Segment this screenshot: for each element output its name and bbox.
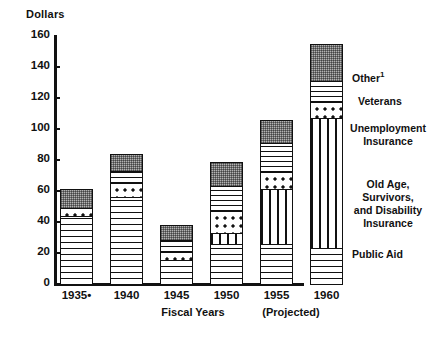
y-tick-label-60: 60 — [4, 184, 50, 195]
bar-1950-segment-public-aid — [211, 244, 242, 286]
legend-label-other: Other1 — [352, 55, 384, 85]
y-tick-label-40: 40 — [4, 215, 50, 226]
y-tick-120 — [54, 97, 60, 99]
x-axis-title: Fiscal Years — [133, 306, 253, 318]
x-tick-label-1955: 1955 — [250, 289, 303, 301]
y-tick-label-20: 20 — [4, 246, 50, 257]
bar-1960-segment-public-aid — [311, 248, 342, 286]
x-tick-label-1945: 1945 — [150, 289, 203, 301]
x-tick-label-1935: 1935• — [50, 289, 103, 301]
bar-1960-segment-veterans — [311, 81, 342, 103]
x-tick-label-1940: 1940 — [100, 289, 153, 301]
bar-1960-segment-oasdi — [311, 118, 342, 248]
y-tick-label-80: 80 — [4, 153, 50, 164]
bar-1935-segment-unemployment — [61, 208, 92, 216]
legend-label-unemployment: Unemployment Insurance — [348, 122, 428, 148]
legend-label-public-aid: Public Aid — [352, 248, 403, 261]
legend-label-oasdi: Old Age, Survivors, and Disability Insur… — [344, 178, 431, 230]
bar-1960-segment-other — [311, 45, 342, 81]
bar-1955-segment-oasdi — [261, 189, 292, 243]
bar-1940-segment-public-aid — [111, 197, 142, 286]
bar-1955-segment-public-aid — [261, 244, 292, 286]
bar-1960 — [310, 44, 343, 285]
y-tick-label-100: 100 — [4, 122, 50, 133]
bar-1950 — [210, 162, 243, 285]
legend-other-text: Other — [352, 72, 380, 84]
bar-1945-segment-veterans — [161, 240, 192, 252]
x-axis-projected-note: (Projected) — [236, 306, 346, 318]
bar-1935-segment-other — [61, 190, 92, 209]
bar-1935 — [60, 189, 93, 285]
bar-1945-segment-other — [161, 226, 192, 240]
bar-1945-segment-public-aid — [161, 260, 192, 286]
y-tick-label-140: 140 — [4, 60, 50, 71]
bar-1940-segment-other — [111, 155, 142, 171]
y-tick-label-160: 160 — [4, 29, 50, 40]
bar-1955 — [260, 120, 293, 285]
bar-1950-segment-oasdi — [211, 233, 242, 244]
bar-1940-segment-veterans — [111, 171, 142, 183]
y-tick-80 — [54, 159, 60, 161]
bar-1955-segment-veterans — [261, 143, 292, 173]
x-tick-label-1950: 1950 — [200, 289, 253, 301]
bar-1940 — [110, 154, 143, 285]
bar-1950-segment-veterans — [211, 186, 242, 211]
y-axis-tick-labels: 160 140 120 100 80 60 40 20 0 — [0, 0, 50, 341]
bar-1935-segment-public-aid — [61, 216, 92, 286]
y-tick-label-120: 120 — [4, 91, 50, 102]
legend-label-veterans: Veterans — [358, 95, 402, 108]
x-tick-label-1960: 1960 — [300, 289, 353, 301]
y-tick-100 — [54, 128, 60, 130]
bar-1955-segment-unemployment — [261, 172, 292, 189]
legend-other-footnote: 1 — [380, 70, 384, 79]
y-tick-140 — [54, 66, 60, 68]
bar-1940-segment-unemployment — [111, 183, 142, 197]
bar-1950-segment-other — [211, 163, 242, 186]
bar-1950-segment-unemployment — [211, 211, 242, 233]
bar-1955-segment-other — [261, 121, 292, 143]
bar-1960-segment-unemployment — [311, 102, 342, 118]
bar-1945-segment-unemployment — [161, 252, 192, 260]
y-tick-label-0: 0 — [4, 277, 50, 288]
bar-1945 — [160, 225, 193, 285]
